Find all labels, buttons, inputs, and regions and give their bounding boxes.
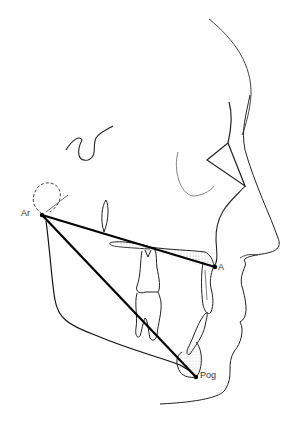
a-point (213, 265, 217, 269)
condyle-tick (46, 195, 68, 212)
ar-point (40, 213, 44, 217)
cephalometric-tracing (0, 0, 295, 422)
a-label: A (218, 262, 224, 272)
upper-incisor-inner (205, 270, 207, 300)
pog-label: Pog (200, 370, 216, 380)
upper-lip-line (240, 254, 258, 258)
upper-incisor (202, 262, 215, 314)
pterygoid-process (102, 200, 108, 232)
pog-point (194, 375, 198, 379)
frontal-curve (228, 102, 231, 143)
nasal-bone (207, 143, 245, 186)
cranium-outline (209, 19, 251, 135)
ar-label: Ar (21, 208, 30, 218)
maxilla-anterior (214, 186, 245, 266)
condyle-outline (33, 183, 60, 214)
ar-pog-line (42, 215, 196, 377)
sella-turcica (66, 126, 113, 160)
